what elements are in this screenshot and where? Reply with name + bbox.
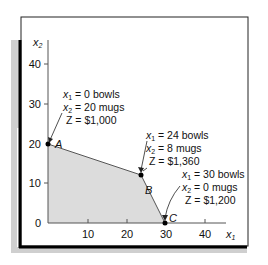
y-tick-0: 0 — [35, 217, 41, 229]
svg-text:x2 = 20 mugs: x2 = 20 mugs — [62, 101, 124, 114]
y-tick-10: 10 — [29, 177, 41, 189]
annotation-b: x1 = 24 bowls x2 = 8 mugs Z = $1,360 — [145, 129, 209, 167]
annotation-c: x1 = 30 bowls x2 = 0 mugs Z = $1,200 — [181, 168, 245, 206]
svg-text:x1 = 30 bowls: x1 = 30 bowls — [181, 168, 245, 181]
label-a: A — [54, 138, 62, 150]
y-tick-30: 30 — [29, 98, 41, 110]
svg-text:Z = $1,000: Z = $1,000 — [66, 114, 117, 126]
svg-text:Z = $1,200: Z = $1,200 — [185, 194, 236, 206]
y-tick-40: 40 — [29, 58, 41, 70]
svg-text:x1 = 24 bowls: x1 = 24 bowls — [145, 129, 209, 142]
label-b: B — [145, 184, 152, 196]
label-c: C — [169, 212, 177, 224]
point-b — [139, 173, 144, 178]
x-tick-30: 30 — [160, 228, 172, 240]
x-tick-10: 10 — [82, 228, 94, 240]
point-c — [163, 221, 168, 226]
y-tick-20: 20 — [29, 138, 41, 150]
frame-shadow-left — [11, 40, 17, 253]
lp-graph: 40 30 20 10 0 10 20 30 40 x2 x1 A B C x1… — [0, 0, 268, 265]
x-tick-20: 20 — [121, 228, 133, 240]
annotation-a: x1 = 0 bowls x2 = 20 mugs Z = $1,000 — [62, 88, 124, 126]
svg-text:Z = $1,360: Z = $1,360 — [149, 155, 200, 167]
x-tick-40: 40 — [199, 228, 211, 240]
